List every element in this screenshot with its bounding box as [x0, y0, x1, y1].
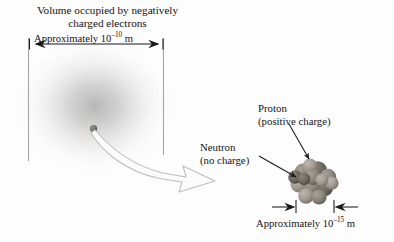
atom-dimension-exponent: –10: [111, 31, 122, 39]
neutron-label-line-1: Neutron: [200, 141, 235, 153]
nucleus-dimension-suffix: m: [344, 218, 355, 229]
caption-line-1: Volume occupied by negatively: [37, 4, 178, 16]
neutron-label: Neutron (no charge): [200, 141, 249, 166]
caption-line-2: charged electrons: [0, 17, 215, 30]
neutron-leader-line: [259, 156, 296, 177]
electron-cloud-region: [11, 34, 179, 178]
atom-dimension-suffix: m: [122, 33, 133, 44]
nucleus-dimension-exponent: –15: [333, 216, 344, 224]
proton-label-line-2: (positive charge): [258, 115, 331, 128]
atom-scale-diagram: Volume occupied by negatively charged el…: [0, 0, 394, 242]
atom-dimension-prefix: Approximately 10: [34, 33, 111, 44]
atom-dimension-label: Approximately 10–10 m: [34, 33, 133, 46]
nucleus-dimension-label: Approximately 10–15 m: [256, 218, 355, 231]
neutron-label-line-2: (no charge): [200, 154, 249, 167]
proton-label-line-1: Proton: [258, 102, 287, 114]
nucleus-dimension-prefix: Approximately 10: [256, 218, 333, 229]
nucleus-particle-cluster: [288, 159, 338, 205]
electron-cloud-caption: Volume occupied by negatively charged el…: [0, 4, 215, 30]
proton-leader-line: [289, 124, 309, 159]
proton-label: Proton (positive charge): [258, 102, 331, 127]
